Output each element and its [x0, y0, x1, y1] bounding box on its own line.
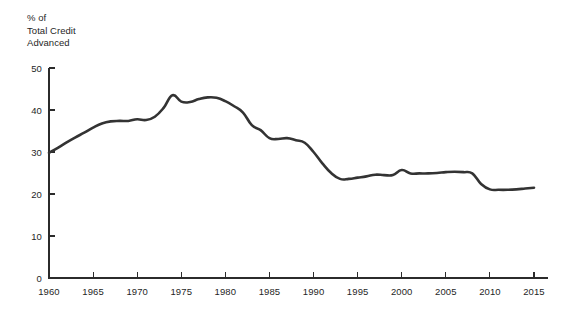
y-axis-tick-label: 10	[31, 231, 42, 242]
x-axis-tick-label: 2005	[435, 286, 457, 297]
x-axis-tick-label: 1990	[303, 286, 325, 297]
series-group	[49, 95, 534, 190]
x-axis-tick-label: 1980	[215, 286, 237, 297]
line-chart-plot: 01020304050 1960196519701975198019851990…	[0, 0, 568, 313]
x-axis-tick-label: 1960	[38, 286, 60, 297]
y-axis-tick-label: 50	[31, 63, 42, 74]
x-axis-tick-label: 2010	[479, 286, 501, 297]
x-axis-tick-label: 1965	[82, 286, 104, 297]
y-axis-tick-label: 20	[31, 189, 42, 200]
y-axis-tick-label: 40	[31, 105, 42, 116]
x-axis-tick-label: 1970	[126, 286, 148, 297]
y-axis-tick-label: 30	[31, 147, 42, 158]
x-axis-tick-label: 1975	[170, 286, 192, 297]
y-axis-tick-labels: 01020304050	[31, 63, 42, 284]
y-axis-ticks	[49, 68, 55, 278]
x-axis-tick-label: 1995	[347, 286, 369, 297]
x-axis-tick-label: 2000	[391, 286, 413, 297]
x-axis-tick-label: 2015	[523, 286, 545, 297]
chart-container: % of Total Credit Advanced 01020304050 1…	[0, 0, 568, 313]
x-axis-tick-label: 1985	[259, 286, 281, 297]
y-axis-tick-label: 0	[37, 273, 42, 284]
x-axis-tick-labels: 1960196519701975198019851990199520002005…	[38, 286, 545, 297]
x-axis-ticks	[93, 272, 534, 278]
data-series-line	[49, 95, 534, 190]
